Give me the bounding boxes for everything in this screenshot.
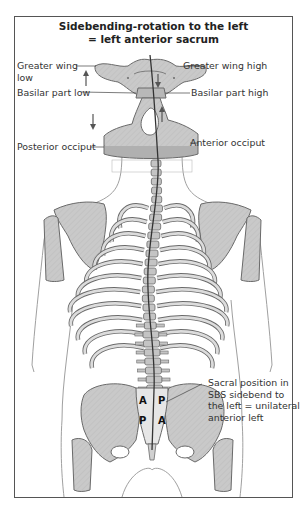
vertebra: [148, 232, 160, 239]
rib: [92, 345, 144, 368]
transverse-process: [162, 378, 170, 381]
vertebra: [151, 205, 163, 212]
left-scapula: [44, 202, 106, 282]
vertebra: [145, 358, 161, 365]
rib: [71, 303, 141, 326]
label-anterior-occiput: Anterior occiput: [190, 137, 265, 149]
transverse-process: [136, 351, 144, 354]
arrow-up-icon: [83, 70, 89, 86]
rib: [159, 331, 217, 354]
rib: [158, 317, 222, 340]
basilar-part: [136, 88, 166, 98]
rib: [111, 219, 147, 242]
transverse-process: [161, 360, 169, 363]
label-greater-wing-low: Greater wing low: [17, 60, 78, 83]
vertebra: [145, 259, 157, 266]
rib: [159, 331, 217, 354]
occiput-bone: [104, 98, 198, 159]
rib: [157, 303, 227, 326]
label-greater-wing-high: Greater wing high: [183, 60, 267, 72]
rib: [158, 317, 222, 340]
transverse-process: [159, 333, 167, 336]
rib: [85, 331, 143, 354]
label-basilar-part-high: Basilar part high: [191, 87, 269, 99]
transverse-process: [160, 342, 168, 345]
label-posterior-occiput: Posterior occiput: [17, 141, 96, 153]
sacrum-marker-lower-right: A: [158, 415, 166, 426]
vertebra: [150, 214, 162, 221]
rib: [160, 345, 212, 368]
rib: [78, 317, 142, 340]
transverse-process: [137, 369, 145, 372]
vertebra: [147, 241, 159, 248]
transverse-process: [136, 324, 144, 327]
rib: [85, 331, 143, 354]
rib: [71, 303, 141, 326]
transverse-process: [137, 360, 145, 363]
transverse-process: [156, 324, 164, 327]
sacrum-marker-upper-right: P: [158, 395, 165, 406]
transverse-process: [138, 378, 146, 381]
rib: [78, 317, 142, 340]
vertebra: [144, 349, 160, 356]
transverse-process: [135, 333, 143, 336]
transverse-process: [161, 369, 169, 372]
vertebra: [151, 178, 161, 185]
transverse-process: [160, 351, 168, 354]
transverse-process: [136, 342, 144, 345]
arrow-down-icon: [90, 114, 96, 130]
vertebra: [151, 169, 161, 176]
vertebra: [149, 223, 161, 230]
rib: [160, 345, 212, 368]
vertebra: [146, 250, 158, 257]
sacrum-marker-lower-left: P: [139, 415, 146, 426]
label-basilar-part-low: Basilar part low: [17, 87, 90, 99]
vertebra: [143, 277, 155, 284]
sacrum-marker-upper-left: A: [139, 395, 147, 406]
rib: [157, 303, 227, 326]
rib: [92, 345, 144, 368]
vertebra: [151, 160, 161, 167]
rib: [103, 233, 146, 256]
label-sacral-position: Sacral position in SBS sidebend to the l…: [208, 377, 300, 423]
vertebra: [144, 268, 156, 275]
